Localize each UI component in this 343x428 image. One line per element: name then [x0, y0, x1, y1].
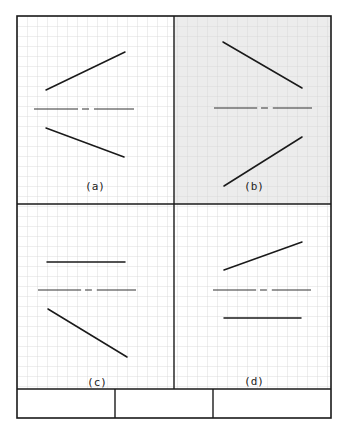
panel-label-d: (d) — [244, 375, 264, 388]
panel-label-b: (b) — [244, 180, 264, 193]
panel-label-c: (c) — [87, 376, 107, 389]
panel-label-a: (a) — [85, 180, 105, 193]
drawing-sheet: (a) (b) (c) (d) — [0, 0, 343, 428]
